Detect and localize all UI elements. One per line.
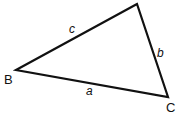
vertex-label-b: B	[4, 72, 13, 87]
vertex-label-a: A	[133, 0, 142, 2]
side-label-b: b	[157, 46, 164, 60]
side-label-a: a	[86, 84, 93, 98]
triangle-diagram: A B C c b a	[0, 0, 177, 117]
side-label-c: c	[69, 22, 75, 36]
vertex-label-c: C	[166, 100, 175, 115]
